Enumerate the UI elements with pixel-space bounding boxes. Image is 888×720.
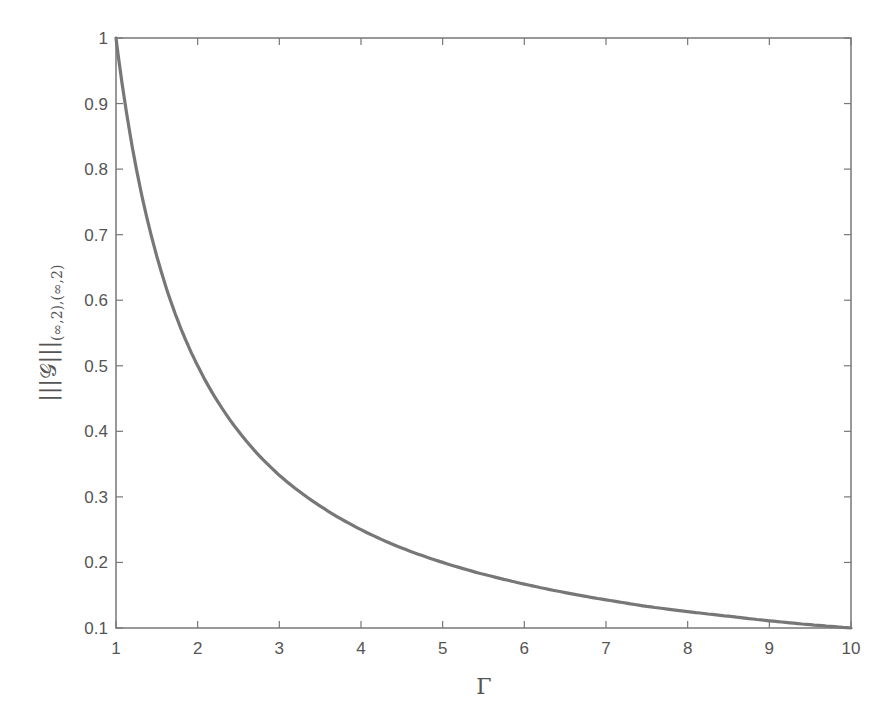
y-tick-label: 0.2: [84, 553, 108, 572]
y-tick-label: 0.3: [84, 488, 108, 507]
y-axis-ticks: 0.10.20.30.40.50.60.70.80.91: [84, 29, 851, 638]
x-axis-ticks: 12345678910: [111, 38, 860, 658]
x-tick-label: 9: [765, 639, 774, 658]
x-tick-label: 4: [356, 639, 365, 658]
y-tick-label: 1: [99, 29, 108, 48]
plot-area: [116, 38, 851, 628]
y-tick-label: 0.7: [84, 226, 108, 245]
y-tick-label: 0.5: [84, 357, 108, 376]
data-line: [116, 38, 851, 628]
y-tick-label: 0.9: [84, 95, 108, 114]
axes-box: [116, 38, 851, 628]
y-tick-label: 0.4: [84, 422, 108, 441]
x-axis-label: Γ: [476, 674, 491, 699]
x-tick-label: 2: [193, 639, 202, 658]
x-tick-label: 3: [275, 639, 284, 658]
x-tick-label: 7: [601, 639, 610, 658]
x-tick-label: 1: [111, 639, 120, 658]
y-axis-label: |||𝒢|||(∞,2),(∞,2): [36, 265, 65, 402]
y-tick-label: 0.8: [84, 160, 108, 179]
axes-frame: [116, 38, 851, 628]
x-tick-label: 6: [520, 639, 529, 658]
x-tick-label: 10: [842, 639, 861, 658]
y-axis-label-subscript: (∞,2),(∞,2): [49, 265, 65, 341]
x-tick-label: 8: [683, 639, 692, 658]
svg-text:|||𝒢|||(∞,2),(∞,2): |||𝒢|||(∞,2),(∞,2): [36, 265, 65, 402]
y-tick-label: 0.6: [84, 291, 108, 310]
y-axis-label-main: |||𝒢|||: [36, 341, 62, 401]
y-tick-label: 0.1: [84, 619, 108, 638]
x-tick-label: 5: [438, 639, 447, 658]
chart: 12345678910 0.10.20.30.40.50.60.70.80.91…: [0, 0, 888, 720]
